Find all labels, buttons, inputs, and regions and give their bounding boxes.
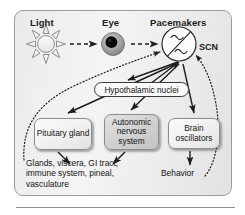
header-pacemakers: Pacemakers	[150, 17, 206, 28]
scn-label: SCN	[199, 42, 218, 52]
header-eye: Eye	[102, 17, 119, 28]
figure-canvas: Light Eye Pacemakers SCN Hypothalamic nu…	[0, 0, 245, 215]
behavior-label: Behavior	[161, 168, 194, 178]
sun-icon	[27, 25, 66, 64]
header-light: Light	[30, 17, 54, 28]
targets-text: Glands, viscera, GI tract, immune system…	[26, 158, 166, 189]
oscillator-icon	[162, 27, 196, 61]
eye-icon	[102, 33, 125, 56]
